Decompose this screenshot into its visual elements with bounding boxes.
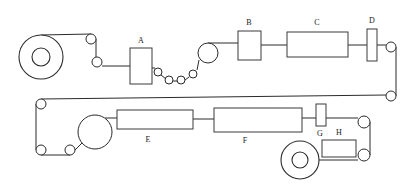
web-segment-to-midroller: [197, 60, 199, 70]
unit-box-d[interactable]: [367, 29, 377, 61]
unit-box-f[interactable]: [214, 108, 302, 132]
roller-10: [36, 99, 46, 109]
unit-label-h: H: [336, 128, 342, 137]
roller-5: [177, 76, 185, 84]
roller-9: [386, 91, 396, 101]
unit-box-h[interactable]: [322, 140, 356, 157]
web-segment-unwind-to-roller1: [41, 34, 91, 35]
roller-12: [65, 145, 75, 155]
roller-3: [154, 68, 162, 76]
unit-box-b[interactable]: [238, 31, 261, 60]
roller-11: [36, 145, 46, 155]
process-diagram-container: A B C D E F G H: [0, 0, 414, 196]
web-segment-to-bigroller: [75, 143, 82, 150]
rewind-roll-core: [292, 152, 308, 168]
roller-4: [165, 76, 173, 84]
unit-box-c[interactable]: [287, 32, 348, 57]
unit-box-g[interactable]: [316, 104, 326, 126]
unit-label-e: E: [145, 135, 150, 144]
unit-label-g: G: [317, 129, 323, 138]
roller-15: [358, 149, 370, 161]
roller-13: [78, 115, 112, 149]
roller-6: [189, 70, 197, 78]
roller-1: [86, 34, 96, 44]
web-segment-long-rail: [41, 95, 386, 99]
unit-box-e[interactable]: [117, 110, 193, 129]
unit-label-d: D: [369, 16, 375, 25]
unwind-roll-core: [32, 48, 50, 66]
unit-label-a: A: [138, 36, 144, 45]
roller-8: [386, 42, 396, 52]
unit-label-f: F: [243, 136, 248, 145]
unwind-roll: [19, 35, 63, 79]
roller-2: [92, 57, 102, 67]
unit-label-c: C: [314, 18, 320, 27]
unit-box-a[interactable]: [130, 48, 152, 84]
rewind-roll: [281, 141, 319, 179]
web-process-diagram: A B C D E F G H: [0, 0, 414, 196]
roller-7: [198, 43, 218, 63]
roller-14: [358, 116, 370, 128]
unit-label-b: B: [246, 18, 252, 27]
